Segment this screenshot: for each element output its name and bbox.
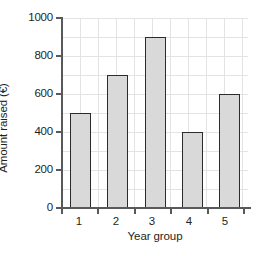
x-axis-tick (97, 208, 99, 214)
x-tick-label: 3 (142, 216, 162, 228)
plot-area (62, 18, 248, 208)
y-axis-tick (56, 55, 62, 57)
x-tick-label: 2 (106, 216, 126, 228)
y-axis-tick (56, 17, 62, 19)
gridline-vertical (242, 18, 243, 208)
x-axis-line (61, 207, 251, 209)
x-axis-tick (61, 208, 63, 214)
x-tick-label: 1 (69, 216, 89, 228)
x-axis-tick (170, 208, 172, 214)
gridline-horizontal (62, 18, 248, 19)
bar-chart: 1000 800 600 400 200 0 1 2 3 4 5 Amount … (0, 0, 271, 256)
x-axis-tick (207, 208, 209, 214)
bar-year-group-2 (107, 75, 128, 208)
x-axis-tick (134, 208, 136, 214)
y-axis-tick (56, 131, 62, 133)
x-tick-label: 5 (215, 216, 235, 228)
y-axis-tick (56, 93, 62, 95)
gridline-vertical (98, 18, 99, 208)
gridline-vertical (206, 18, 207, 208)
gridline-vertical (170, 18, 171, 208)
y-axis-line (61, 17, 63, 209)
y-axis-title: Amount raised (€) (0, 0, 26, 256)
gridline-vertical (134, 18, 135, 208)
x-axis-tick (243, 208, 245, 214)
bar-year-group-4 (182, 132, 203, 208)
bar-year-group-1 (70, 113, 91, 208)
x-axis-title: Year group (62, 230, 248, 242)
bar-year-group-5 (219, 94, 240, 208)
bar-year-group-3 (145, 37, 166, 208)
y-axis-tick (56, 169, 62, 171)
x-tick-label: 4 (179, 216, 199, 228)
